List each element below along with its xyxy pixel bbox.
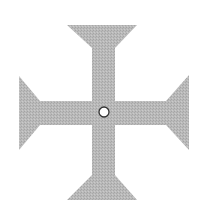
center-circle-icon — [99, 107, 109, 117]
bottom-arm — [67, 175, 137, 200]
left-arm — [19, 76, 40, 150]
right-arm — [166, 75, 189, 150]
cross-pattee-icon — [0, 0, 199, 223]
figure-canvas: cross-pattee — [0, 0, 199, 223]
top-arm — [67, 25, 137, 48]
